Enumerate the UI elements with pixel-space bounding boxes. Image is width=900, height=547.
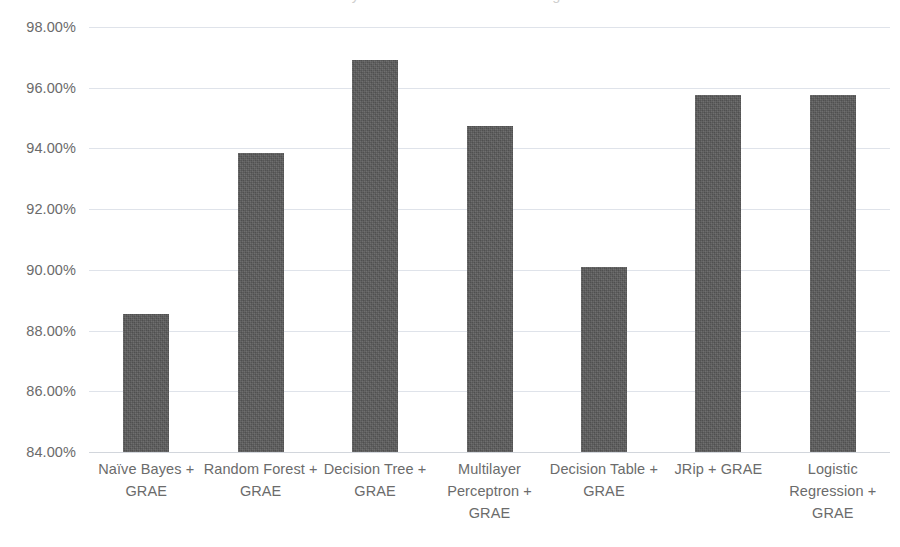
bar[interactable] — [810, 95, 856, 452]
chart-title-clipped: Accuracy of Classifiers with Genetic Alg… — [0, 0, 900, 7]
x-axis-tick-label: Multilayer Perceptron + GRAE — [432, 458, 546, 524]
bar[interactable] — [581, 267, 627, 452]
bar[interactable] — [695, 95, 741, 452]
y-axis-tick-label: 98.00% — [26, 19, 76, 35]
x-axis-tick-label: Decision Tree + GRAE — [318, 458, 432, 502]
x-axis-tick-label: Random Forest + GRAE — [203, 458, 317, 502]
x-axis-tick-label: Logistic Regression + GRAE — [776, 458, 890, 524]
bar-chart: Accuracy of Classifiers with Genetic Alg… — [0, 0, 900, 547]
y-axis-tick-label: 90.00% — [26, 262, 76, 278]
bar[interactable] — [352, 60, 398, 452]
gridline — [89, 27, 890, 28]
gridline — [89, 452, 890, 453]
y-axis-tick-label: 94.00% — [26, 140, 76, 156]
bar[interactable] — [467, 126, 513, 452]
gridline — [89, 88, 890, 89]
bar[interactable] — [238, 153, 284, 452]
y-axis-tick-label: 96.00% — [26, 80, 76, 96]
x-axis-tick-label: JRip + GRAE — [661, 458, 775, 480]
y-axis-tick-label: 88.00% — [26, 323, 76, 339]
x-axis-tick-label: Decision Table + GRAE — [547, 458, 661, 502]
plot-area — [89, 27, 890, 452]
x-axis-tick-label: Naïve Bayes + GRAE — [89, 458, 203, 502]
y-axis-tick-label: 86.00% — [26, 383, 76, 399]
bar[interactable] — [123, 314, 169, 452]
x-axis: Naïve Bayes + GRAERandom Forest + GRAEDe… — [89, 458, 890, 546]
y-axis-tick-label: 84.00% — [26, 444, 76, 460]
y-axis: 98.00%96.00%94.00%92.00%90.00%88.00%86.0… — [0, 0, 86, 547]
y-axis-tick-label: 92.00% — [26, 201, 76, 217]
